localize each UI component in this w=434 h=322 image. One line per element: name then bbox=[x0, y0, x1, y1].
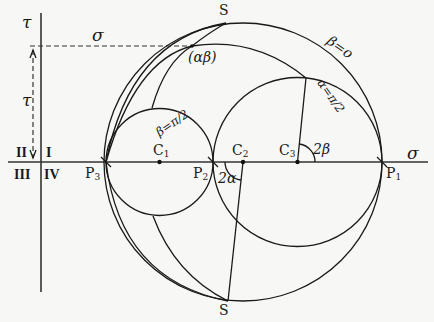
quadrant-I: I bbox=[46, 146, 51, 160]
arc-p3-to-s-bottom bbox=[106, 162, 228, 301]
label-p1: P1 bbox=[386, 166, 401, 182]
dashed-sigma-label: σ bbox=[92, 27, 104, 44]
quadrant-III: III bbox=[14, 168, 30, 182]
label-c1: C1 bbox=[153, 143, 169, 159]
sigma-axis-label: σ bbox=[407, 145, 419, 162]
alpha-beta-dot bbox=[190, 44, 194, 48]
radius-c3 bbox=[298, 78, 307, 162]
tau-axis-label: τ bbox=[22, 14, 31, 31]
dashed-tau-label: τ bbox=[22, 92, 31, 109]
label-p2: P2 bbox=[193, 166, 208, 182]
arc-c1-to-s-bottom bbox=[153, 216, 228, 301]
c1-dot bbox=[157, 160, 161, 164]
diagram-canvas bbox=[0, 0, 434, 322]
label-s-bottom: S bbox=[219, 303, 229, 317]
mohr-circle-diagram: τ σ τ σ I II III IV PP33 P2 P1 C1 C2 C3 … bbox=[0, 0, 434, 322]
label-s-top: S bbox=[219, 3, 229, 17]
quadrant-IV: IV bbox=[44, 168, 60, 182]
label-2beta: 2β bbox=[313, 142, 330, 156]
arc-beta-const bbox=[152, 23, 226, 108]
label-p3: PP33 bbox=[85, 166, 100, 182]
quadrant-II: II bbox=[16, 146, 27, 160]
c3-dot bbox=[295, 160, 299, 164]
label-c2: C2 bbox=[232, 143, 248, 159]
label-2alpha: 2α bbox=[218, 171, 236, 185]
c2-dot bbox=[241, 160, 245, 164]
label-alpha-beta: (αβ) bbox=[188, 50, 216, 64]
label-c3: C3 bbox=[279, 143, 295, 159]
